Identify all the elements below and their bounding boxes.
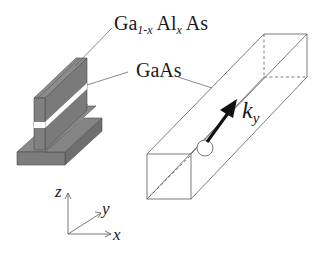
- y-axis: [68, 213, 101, 234]
- label-axis-z: z: [54, 182, 62, 201]
- base-slab-front: [17, 152, 65, 165]
- leader-line-barrier: [75, 28, 112, 66]
- wavevector-arrow-shaft: [207, 113, 228, 142]
- leader-line-gaas-left: [87, 72, 128, 85]
- quantum-wire-diagram: Ga1-x Alx As GaAs ky z y x: [0, 0, 320, 253]
- wavevector-arrow-head: [220, 99, 237, 118]
- leader-line-gaas-right: [178, 77, 212, 88]
- label-barrier: Ga1-x Alx As: [114, 12, 208, 37]
- electron-circle: [197, 140, 213, 156]
- label-gaas: GaAs: [136, 59, 182, 81]
- label-wavevector: ky: [242, 97, 260, 126]
- label-axis-x: x: [112, 225, 121, 244]
- gaas-front-stripe: [34, 122, 45, 128]
- t-shaped-heterostructure: [17, 58, 102, 165]
- label-axis-y: y: [100, 199, 110, 218]
